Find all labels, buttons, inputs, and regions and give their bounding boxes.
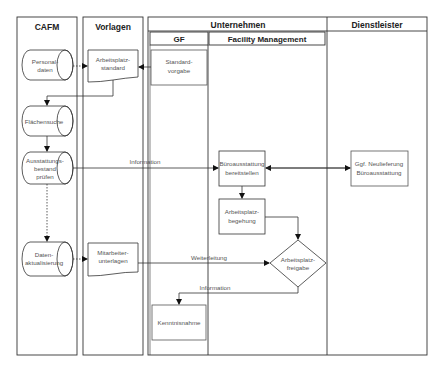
svg-text:Standard-: Standard- xyxy=(165,58,192,65)
svg-text:Kenntnisnahme: Kenntnisnahme xyxy=(158,319,202,326)
lane-header-cafm: CAFM xyxy=(35,22,60,32)
svg-text:daten: daten xyxy=(37,66,53,73)
svg-text:aktualisierung: aktualisierung xyxy=(25,259,64,266)
svg-text:Flächensuche: Flächensuche xyxy=(25,118,64,125)
svg-text:bestand: bestand xyxy=(34,165,57,172)
svg-text:Mitarbeiter-: Mitarbeiter- xyxy=(97,249,128,256)
svg-text:Arbeitsplatz-: Arbeitsplatz- xyxy=(96,56,130,63)
svg-text:unterlagen: unterlagen xyxy=(98,257,128,264)
edge-label-information-2: Information xyxy=(200,284,232,291)
svg-text:Büroausstattung: Büroausstattung xyxy=(356,169,402,176)
node-datenaktualisierung: Daten- aktualisierung xyxy=(22,242,73,276)
svg-text:Arbeitsplatz-: Arbeitsplatz- xyxy=(225,208,259,215)
svg-text:Personal-: Personal- xyxy=(32,58,58,65)
svg-text:standard: standard xyxy=(101,64,126,71)
svg-text:freigabe: freigabe xyxy=(287,264,310,271)
edge-label-information-1: Information xyxy=(130,158,162,165)
svg-text:Büroausstattung: Büroausstattung xyxy=(219,160,265,167)
lane-header-dienstleister: Dienstleister xyxy=(351,20,403,30)
svg-text:Daten-: Daten- xyxy=(35,251,54,258)
node-begehung: Arbeitsplatz- begehung xyxy=(219,199,265,234)
process-diagram: CAFM Vorlagen Unternehmen Dienstleister … xyxy=(0,0,445,370)
svg-text:Arbeitsplatz-: Arbeitsplatz- xyxy=(281,256,315,263)
node-ausstattungsbestand: Ausstattungs- bestand prüfen xyxy=(22,152,73,184)
lane-header-vorlagen: Vorlagen xyxy=(95,22,131,32)
svg-text:Ggf. Neulieferung: Ggf. Neulieferung xyxy=(355,160,404,167)
edge-label-weiterleitung: Weiterleitung xyxy=(191,254,228,261)
svg-text:prüfen: prüfen xyxy=(36,173,54,180)
lane-header-unternehmen: Unternehmen xyxy=(211,20,266,30)
svg-text:bereitstellen: bereitstellen xyxy=(225,169,259,176)
svg-text:vorgabe: vorgabe xyxy=(168,67,191,74)
node-flaechensuche: Flächensuche xyxy=(22,106,73,136)
node-arbeitsplatzstandard: Arbeitsplatz- standard xyxy=(88,50,138,82)
lane-header-fm: Facility Management xyxy=(228,35,307,44)
node-standardvorgabe: Standard- vorgabe xyxy=(151,50,207,85)
svg-text:Ausstattungs-: Ausstattungs- xyxy=(26,157,64,164)
node-mitarbeiterunterlagen: Mitarbeiter- unterlagen xyxy=(88,243,138,276)
node-kenntnisnahme: Kenntnisnahme xyxy=(152,305,206,340)
node-freigabe: Arbeitsplatz- freigabe xyxy=(270,240,326,287)
lane-header-gf: GF xyxy=(173,35,184,44)
node-bueroausstattung: Büroausstattung bereitstellen xyxy=(219,151,265,186)
node-neulieferung: Ggf. Neulieferung Büroausstattung xyxy=(351,151,408,186)
node-personaldaten: Personal- daten xyxy=(22,50,73,80)
svg-text:begehung: begehung xyxy=(228,217,256,224)
